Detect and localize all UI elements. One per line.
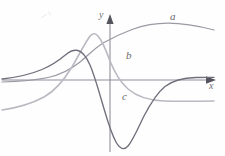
curve-label-b: b [126, 50, 132, 61]
plot-canvas [0, 0, 225, 156]
scan-artifact-mark [41, 13, 51, 19]
curve-c [2, 50, 214, 148]
curve-label-a: a [170, 11, 176, 22]
graph-figure: a b c y x [0, 0, 225, 156]
axes-group [2, 14, 216, 152]
x-axis-label: x [209, 81, 213, 91]
y-axis-arrow-icon [106, 14, 113, 24]
y-axis-label: y [99, 10, 103, 20]
curve-label-c: c [122, 91, 127, 102]
curves-group [2, 23, 214, 148]
